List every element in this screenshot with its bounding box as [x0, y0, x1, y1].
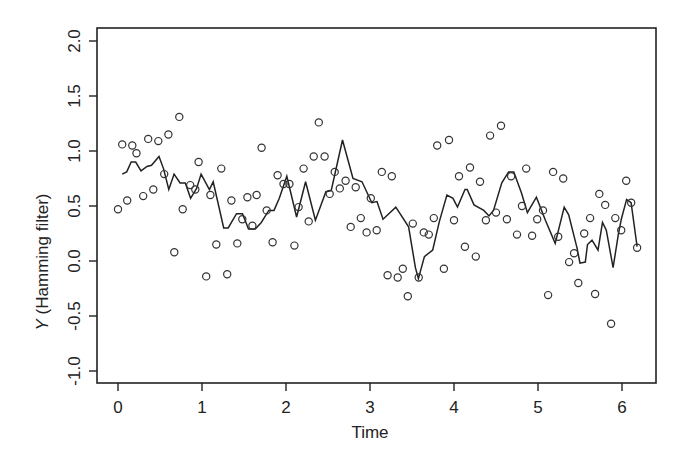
x-tick-label: 3 — [365, 398, 374, 417]
y-tick-label: -0.5 — [65, 301, 84, 330]
data-point — [224, 271, 231, 278]
data-point — [523, 165, 530, 172]
data-point — [119, 141, 126, 148]
data-point — [602, 201, 609, 208]
data-point — [482, 217, 489, 224]
data-point — [342, 177, 349, 184]
data-point — [363, 229, 370, 236]
x-axis-title: Time — [351, 423, 388, 442]
data-point — [450, 217, 457, 224]
data-point — [291, 242, 298, 249]
data-point — [487, 132, 494, 139]
data-point — [455, 173, 462, 180]
data-point — [440, 265, 447, 272]
data-point — [258, 144, 265, 151]
data-point — [155, 138, 162, 145]
data-point — [321, 153, 328, 160]
data-point — [534, 216, 541, 223]
data-point — [529, 232, 536, 239]
x-axis: 0123456 — [113, 383, 626, 417]
data-point — [581, 230, 588, 237]
data-point — [608, 320, 615, 327]
x-tick-label: 5 — [533, 398, 542, 417]
data-point — [274, 172, 281, 179]
data-point — [388, 173, 395, 180]
x-tick-label: 6 — [617, 398, 626, 417]
data-point — [461, 243, 468, 250]
data-point — [310, 153, 317, 160]
data-point — [347, 223, 354, 230]
x-tick-label: 2 — [281, 398, 290, 417]
data-point — [133, 150, 140, 157]
y-tick-label: -1.0 — [65, 356, 84, 385]
data-point — [373, 227, 380, 234]
data-point — [384, 272, 391, 279]
y-axis-title-rest: (Hamming filter) — [33, 194, 52, 320]
data-point — [195, 158, 202, 165]
data-point — [129, 142, 136, 149]
y-axis: -1.0-0.50.00.51.01.52.0 — [65, 29, 97, 385]
data-point — [404, 293, 411, 300]
x-tick-label: 4 — [449, 398, 458, 417]
filter-line-path — [122, 140, 637, 279]
data-point — [171, 249, 178, 256]
data-point — [165, 131, 172, 138]
data-point — [228, 197, 235, 204]
data-point — [587, 215, 594, 222]
data-point — [352, 184, 359, 191]
plot-frame — [97, 28, 656, 383]
data-point — [550, 168, 557, 175]
x-tick-label: 1 — [197, 398, 206, 417]
data-point — [472, 253, 479, 260]
data-point — [497, 122, 504, 129]
data-point — [357, 215, 364, 222]
data-point — [336, 185, 343, 192]
data-point — [378, 168, 385, 175]
data-point — [234, 240, 241, 247]
data-point — [571, 250, 578, 257]
data-point — [269, 239, 276, 246]
data-point — [114, 206, 121, 213]
y-tick-label: 2.0 — [65, 29, 84, 53]
data-point — [305, 218, 312, 225]
data-point — [560, 175, 567, 182]
data-point — [145, 135, 152, 142]
data-point — [575, 279, 582, 286]
data-point — [503, 216, 510, 223]
observation-points — [114, 113, 640, 327]
x-tick-label: 0 — [113, 398, 122, 417]
data-point — [300, 165, 307, 172]
data-point — [434, 142, 441, 149]
data-point — [244, 194, 251, 201]
y-tick-label: 0.0 — [65, 249, 84, 273]
data-point — [124, 197, 131, 204]
data-point — [207, 191, 214, 198]
data-point — [623, 177, 630, 184]
data-point — [176, 113, 183, 120]
data-point — [249, 222, 256, 229]
y-tick-label: 0.5 — [65, 194, 84, 218]
data-point — [430, 215, 437, 222]
data-point — [179, 206, 186, 213]
y-tick-label: 1.0 — [65, 139, 84, 163]
chart: 0123456 -1.0-0.50.00.51.01.52.0 Time Y (… — [0, 0, 680, 460]
data-point — [612, 215, 619, 222]
data-point — [218, 165, 225, 172]
data-point — [394, 274, 401, 281]
data-point — [150, 186, 157, 193]
data-point — [566, 259, 573, 266]
data-point — [140, 193, 147, 200]
data-point — [545, 292, 552, 299]
data-point — [492, 209, 499, 216]
filter-line — [122, 140, 637, 279]
y-tick-label: 1.5 — [65, 84, 84, 108]
y-axis-title: Y (Hamming filter) — [33, 194, 52, 331]
data-point — [409, 220, 416, 227]
data-point — [253, 191, 260, 198]
data-point — [203, 273, 210, 280]
data-point — [476, 178, 483, 185]
data-point — [518, 202, 525, 209]
data-point — [596, 190, 603, 197]
data-point — [466, 164, 473, 171]
data-point — [592, 290, 599, 297]
